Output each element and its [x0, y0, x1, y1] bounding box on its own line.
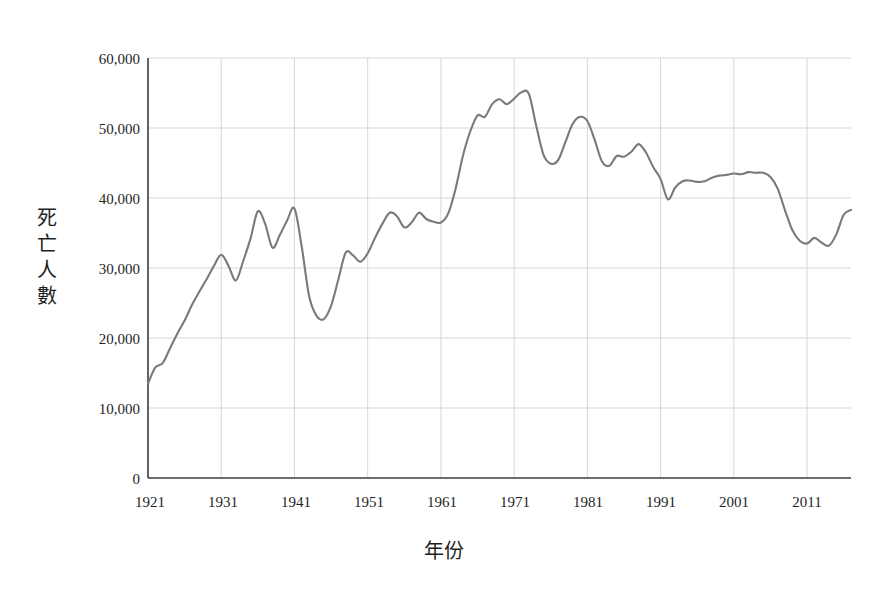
- plot-area: [0, 0, 887, 593]
- data-series-line: [148, 91, 851, 384]
- mortality-line-chart: 死 亡 人 數 60,000 50,000 40,000 30,000 20,0…: [0, 0, 887, 593]
- gridlines: [148, 58, 851, 478]
